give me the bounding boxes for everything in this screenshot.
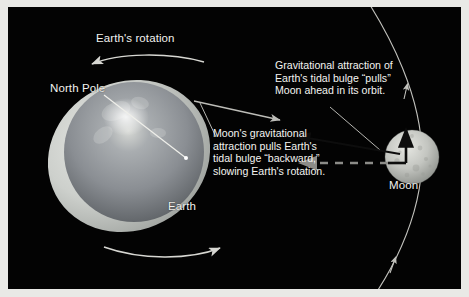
label-earths-rotation: Earth's rotation	[96, 32, 175, 44]
figure-plate: Earth's rotation North Pole Earth Moon G…	[8, 7, 461, 289]
figure-root: Earth's rotation North Pole Earth Moon G…	[0, 0, 469, 297]
callout-moon-drag: Moon's gravitational attraction pulls Ea…	[213, 127, 363, 177]
figure-frame: Earth's rotation North Pole Earth Moon G…	[0, 0, 469, 297]
rotation-arrow-bottom	[104, 247, 220, 257]
label-north-pole: North Pole	[50, 82, 105, 94]
rotation-arrow-top	[92, 55, 204, 64]
diagram-scene: Earth's rotation North Pole Earth Moon G…	[8, 7, 461, 289]
moon-sphere	[385, 130, 439, 184]
label-moon: Moon	[389, 179, 418, 191]
north-pole-leader-dot	[184, 156, 188, 160]
earth-pole-highlight	[103, 98, 149, 136]
orbit-direction-arrow-lower	[390, 259, 395, 273]
label-earth: Earth	[168, 200, 196, 212]
callout-gravitational-pull: Gravitational attraction of Earth's tida…	[275, 59, 427, 97]
